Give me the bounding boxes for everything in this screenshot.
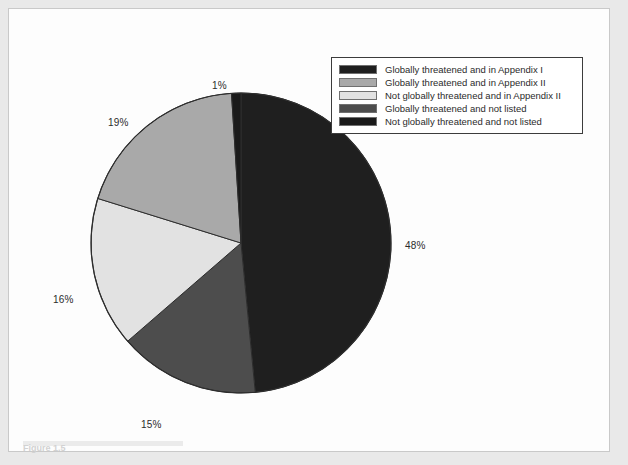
pie-chart bbox=[89, 91, 393, 395]
plot-area: 48% 15% 16% 19% 1% Globally threatened a… bbox=[9, 9, 609, 451]
figure-caption-text: Figure 1.5 bbox=[23, 443, 66, 454]
figure-page: 48% 15% 16% 19% 1% Globally threatened a… bbox=[0, 0, 628, 465]
pie-chart-svg bbox=[89, 91, 393, 395]
pie-label-1-percent: 1% bbox=[212, 80, 227, 91]
legend-item-label: Globally threatened and in Appendix I bbox=[385, 64, 543, 75]
legend-item-label: Not globally threatened and not listed bbox=[385, 116, 542, 127]
chart-legend: Globally threatened and in Appendix I Gl… bbox=[331, 57, 583, 134]
legend-item-label: Not globally threatened and in Appendix … bbox=[385, 90, 561, 101]
pie-label-19-percent: 19% bbox=[108, 117, 129, 128]
pie-slice bbox=[241, 93, 391, 392]
legend-item: Not globally threatened and not listed bbox=[339, 115, 575, 127]
legend-swatch-icon bbox=[339, 78, 377, 87]
legend-item: Not globally threatened and in Appendix … bbox=[339, 89, 575, 101]
figure-caption: Figure 1.5 bbox=[23, 443, 66, 455]
legend-swatch-icon bbox=[339, 117, 377, 126]
legend-item: Globally threatened and in Appendix II bbox=[339, 76, 575, 88]
pie-label-16-percent: 16% bbox=[53, 294, 74, 305]
legend-swatch-icon bbox=[339, 104, 377, 113]
legend-item: Globally threatened and in Appendix I bbox=[339, 63, 575, 75]
legend-swatch-icon bbox=[339, 65, 377, 74]
legend-item-label: Globally threatened and in Appendix II bbox=[385, 77, 546, 88]
legend-item: Globally threatened and not listed bbox=[339, 102, 575, 114]
pie-label-15-percent: 15% bbox=[141, 419, 162, 430]
pie-slice-group bbox=[91, 93, 391, 393]
legend-item-label: Globally threatened and not listed bbox=[385, 103, 527, 114]
figure-frame: 48% 15% 16% 19% 1% Globally threatened a… bbox=[8, 8, 610, 452]
legend-swatch-icon bbox=[339, 91, 377, 100]
pie-label-48-percent: 48% bbox=[405, 240, 426, 251]
